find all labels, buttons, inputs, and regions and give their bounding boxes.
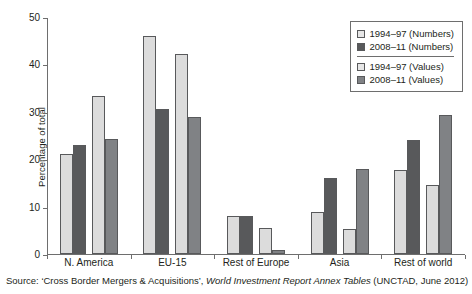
x-axis-label: N. America: [47, 257, 131, 268]
x-axis-label: Rest of world: [381, 257, 465, 268]
bar: [356, 169, 369, 254]
bar: [426, 185, 439, 254]
bar: [156, 109, 169, 254]
legend-label: 1994–97 (Values): [370, 62, 444, 72]
legend-label: 2008–11 (Values): [370, 75, 444, 85]
y-tick-label: 10: [29, 203, 40, 213]
bar: [311, 212, 324, 254]
bar-group: [47, 18, 131, 254]
y-tick-label: 20: [29, 155, 40, 165]
y-axis-title: Percentage of total: [36, 107, 47, 187]
x-axis-labels: N. AmericaEU-15Rest of EuropeAsiaRest of…: [47, 257, 465, 268]
y-tick-label: 50: [29, 13, 40, 23]
legend-label: 2008–11 (Numbers): [370, 42, 454, 52]
bar-group: [131, 18, 215, 254]
bar: [73, 145, 86, 254]
bar: [227, 216, 240, 254]
bar: [60, 154, 73, 254]
y-tick-label: 0: [34, 250, 40, 260]
bar: [259, 228, 272, 254]
x-axis-label: EU-15: [131, 257, 215, 268]
bar: [407, 140, 420, 254]
bar: [188, 117, 201, 254]
chart-legend: 1994–97 (Numbers) 2008–11 (Numbers) 1994…: [350, 21, 464, 92]
legend-swatch-icon: [357, 43, 365, 51]
x-axis-line: [47, 254, 465, 255]
bar: [324, 178, 337, 254]
x-tick-mark: [465, 255, 466, 259]
source-suffix: (UNCTAD, June 2012): [371, 275, 469, 286]
bar: [343, 229, 356, 254]
source-caption: Source: ‘Cross Border Mergers & Acquisit…: [6, 275, 468, 286]
y-tick-label: 30: [29, 108, 40, 118]
bar: [394, 170, 407, 254]
bar: [272, 250, 285, 254]
bar: [439, 115, 452, 254]
legend-divider: [357, 56, 455, 57]
source-prefix: Source: ‘Cross Border Mergers & Acquisit…: [6, 275, 206, 286]
bar-group: [214, 18, 298, 254]
y-tick-label: 40: [29, 60, 40, 70]
bar: [143, 36, 156, 254]
legend-swatch-icon: [357, 63, 365, 71]
x-axis-label: Asia: [298, 257, 382, 268]
legend-swatch-icon: [357, 30, 365, 38]
source-title: World Investment Report Annex Tables: [206, 275, 371, 286]
legend-swatch-icon: [357, 76, 365, 84]
bar: [92, 96, 105, 254]
legend-label: 1994–97 (Numbers): [370, 29, 455, 39]
x-axis-label: Rest of Europe: [214, 257, 298, 268]
legend-item-values-1994-97: 1994–97 (Values): [357, 60, 455, 73]
legend-item-numbers-1994-97: 1994–97 (Numbers): [357, 27, 455, 40]
legend-item-values-2008-11: 2008–11 (Values): [357, 73, 455, 86]
bar: [240, 216, 253, 254]
bar: [105, 139, 118, 254]
legend-item-numbers-2008-11: 2008–11 (Numbers): [357, 40, 455, 53]
bar: [175, 54, 188, 254]
bar-chart: Percentage of total 01020304050 N. Ameri…: [0, 0, 472, 294]
